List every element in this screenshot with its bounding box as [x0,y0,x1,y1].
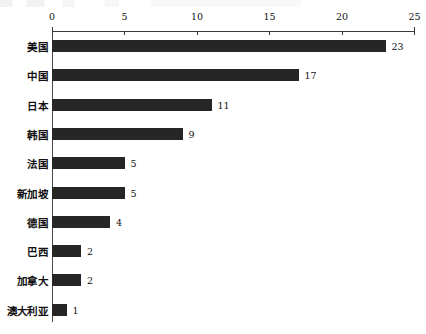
category-label: 美国 [27,39,48,54]
x-axis-tick [342,31,343,35]
x-axis-tick [124,31,125,35]
value-label: 5 [131,158,137,169]
category-label: 德国 [27,214,48,229]
value-label: 9 [189,128,195,139]
bar [52,157,125,169]
value-label: 23 [392,41,404,52]
value-label: 17 [305,70,317,81]
scan-artifact [0,0,426,7]
bar [52,69,299,81]
x-axis-line [52,31,415,32]
x-axis-tick-label: 5 [121,11,127,22]
category-label: 加拿大 [17,273,48,288]
value-label: 11 [218,99,230,110]
bar [52,128,183,140]
x-axis-tick [52,31,53,35]
category-label: 澳大利亚 [7,302,48,317]
category-label: 巴西 [27,244,48,259]
category-label: 中国 [27,68,48,83]
x-axis-tick-label: 0 [49,11,55,22]
bar [52,99,212,111]
bar [52,216,110,228]
category-label: 新加坡 [17,185,48,200]
category-label: 法国 [27,156,48,171]
category-label: 韩国 [27,126,48,141]
value-label: 4 [116,216,122,227]
x-axis-tick [269,31,270,35]
bar [52,245,81,257]
value-label: 2 [87,246,93,257]
value-label: 5 [131,187,137,198]
bar [52,187,125,199]
category-label: 日本 [27,97,48,112]
bar [52,40,386,52]
bar [52,304,67,316]
x-axis-tick-label: 10 [191,11,203,22]
bar [52,274,81,286]
x-axis-tick [197,31,198,35]
x-axis-tick-label: 15 [263,11,275,22]
x-axis-tick [414,31,415,35]
x-axis-tick-label: 25 [408,11,420,22]
x-axis-tick-label: 20 [336,11,348,22]
value-label: 2 [87,275,93,286]
bar-chart: 0510152025 美国23中国17日本11韩国9法国5新加坡5德国4巴西2加… [0,0,426,334]
value-label: 1 [73,304,79,315]
